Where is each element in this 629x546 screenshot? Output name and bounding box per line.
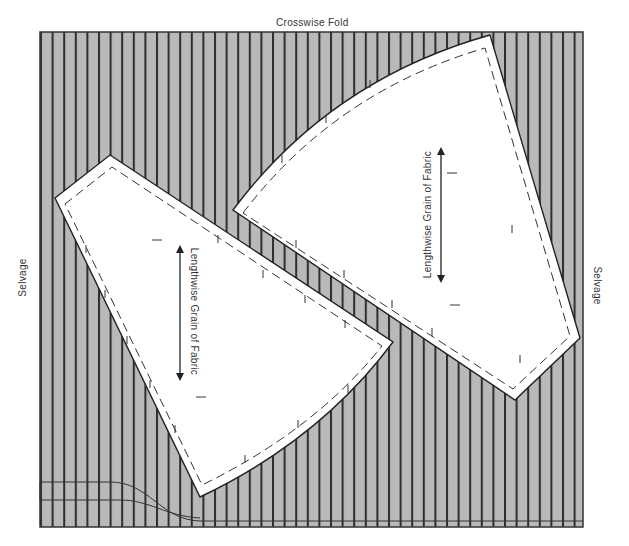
left-piece-grain-label: Lengthwise Grain of Fabric bbox=[189, 247, 200, 377]
right-selvage-label: Selvage bbox=[592, 261, 603, 311]
layout-diagram bbox=[0, 0, 629, 546]
right-piece-grain-label: Lengthwise Grain of Fabric bbox=[422, 150, 433, 280]
crosswise-fold-label: Crosswise Fold bbox=[276, 17, 349, 28]
left-selvage-label: Selvage bbox=[17, 253, 28, 303]
